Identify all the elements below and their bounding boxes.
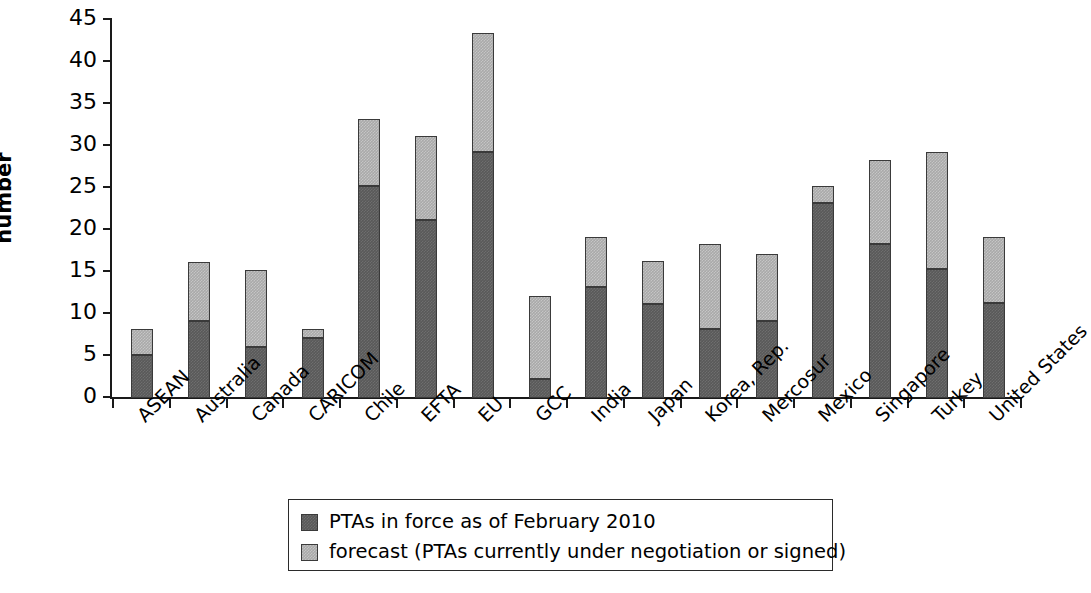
bar-segment-forecast[interactable]: [756, 254, 778, 321]
bar-segment-forecast[interactable]: [585, 237, 607, 287]
y-axis-tick-label: 5: [83, 343, 97, 365]
y-axis-tick-label: 0: [83, 385, 97, 407]
y-axis-tick-label: 30: [69, 133, 97, 155]
bar-segment-forecast[interactable]: [358, 119, 380, 186]
y-axis-tick: 45: [103, 18, 112, 20]
x-axis-tick: [509, 399, 511, 408]
plot-area: 051015202530354045: [112, 20, 1020, 398]
bar-segment-forecast[interactable]: [245, 270, 267, 346]
y-axis-tick: 20: [103, 228, 112, 230]
legend-item-forecast: forecast (PTAs currently under negotiati…: [301, 537, 822, 567]
bar-segment-forecast[interactable]: [131, 329, 153, 355]
y-axis-tick-label: 20: [69, 217, 97, 239]
y-axis-tick-label: 10: [69, 301, 97, 323]
legend-swatch-forecast: [301, 544, 318, 561]
legend-label-forecast: forecast (PTAs currently under negotiati…: [329, 542, 846, 562]
y-axis-tick: 0: [103, 396, 112, 398]
y-axis-tick-label: 15: [69, 259, 97, 281]
bar-segment-forecast[interactable]: [302, 329, 324, 337]
y-axis-title: number: [0, 152, 16, 243]
y-axis-tick: 40: [103, 60, 112, 62]
bar-segment-forecast[interactable]: [472, 33, 494, 151]
y-axis-tick-label: 35: [69, 91, 97, 113]
y-axis-tick: 35: [103, 102, 112, 104]
legend-swatch-in-force: [301, 514, 318, 531]
bar-segment-in-force[interactable]: [188, 321, 210, 398]
bar-segment-forecast[interactable]: [188, 262, 210, 321]
bar-segment-forecast[interactable]: [812, 186, 834, 204]
bar-segment-forecast[interactable]: [415, 136, 437, 220]
legend-label-in-force: PTAs in force as of February 2010: [329, 512, 656, 532]
bar-segment-in-force[interactable]: [983, 303, 1005, 398]
y-axis-tick-label: 40: [69, 49, 97, 71]
y-axis-tick: 25: [103, 186, 112, 188]
bar-segment-forecast[interactable]: [642, 261, 664, 304]
bar-segment-in-force[interactable]: [699, 329, 721, 398]
bar-segment-forecast[interactable]: [983, 237, 1005, 303]
x-axis-tick: [112, 399, 114, 408]
bar-segment-in-force[interactable]: [415, 220, 437, 398]
legend-item-in-force: PTAs in force as of February 2010: [301, 507, 822, 537]
bar-segment-in-force[interactable]: [472, 152, 494, 398]
bar-segment-forecast[interactable]: [869, 160, 891, 244]
bar-segment-in-force[interactable]: [642, 304, 664, 398]
y-axis-tick: 15: [103, 270, 112, 272]
y-axis-tick: 5: [103, 354, 112, 356]
y-axis-tick-label: 25: [69, 175, 97, 197]
y-axis-tick: 10: [103, 312, 112, 314]
y-axis-tick-label: 45: [69, 7, 97, 29]
bar-segment-forecast[interactable]: [926, 152, 948, 270]
y-axis-tick: 30: [103, 144, 112, 146]
bar-segment-forecast[interactable]: [699, 244, 721, 329]
bar-segment-forecast[interactable]: [529, 296, 551, 379]
bar-segment-in-force[interactable]: [585, 287, 607, 398]
chart-legend: PTAs in force as of February 2010 foreca…: [288, 499, 833, 571]
